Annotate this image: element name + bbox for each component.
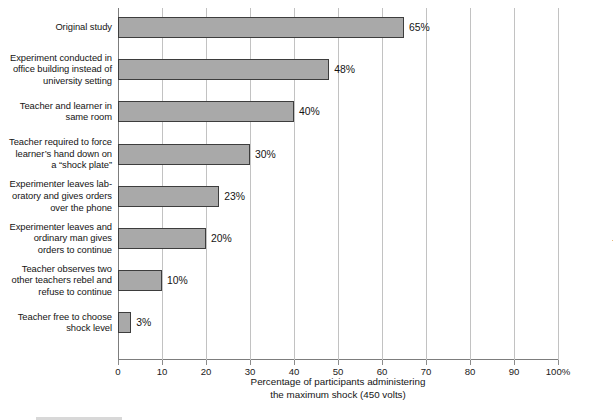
bar	[118, 144, 250, 165]
category-label: Teacher free to chooseshock level	[0, 311, 112, 334]
bar	[118, 228, 206, 249]
bar-value-label: 23%	[224, 186, 245, 207]
gridline	[470, 8, 471, 360]
x-axis-title-line-1: Percentage of participants administering	[118, 376, 558, 389]
category-label-line: Original study	[0, 21, 112, 33]
category-label-line: Teacher required to force	[0, 136, 112, 148]
bar-value-label: 3%	[136, 312, 151, 333]
bar	[118, 59, 329, 80]
category-label-line: orders to continue	[0, 244, 112, 256]
category-label-line: Teacher free to choose	[0, 311, 112, 323]
category-label-line: Experiment conducted in	[0, 52, 112, 64]
bar-value-label: 48%	[334, 59, 355, 80]
x-tick	[470, 360, 471, 365]
category-label-line: other teachers rebel and	[0, 274, 112, 286]
gridline	[426, 8, 427, 360]
bar	[118, 312, 131, 333]
category-label-line: oratory and gives orders	[0, 190, 112, 202]
category-label: Teacher observes twoother teachers rebel…	[0, 263, 112, 298]
x-tick	[250, 360, 251, 365]
category-label-line: ordinary man gives	[0, 232, 112, 244]
category-label: Experimenter leaves lab-oratory and give…	[0, 178, 112, 213]
gridline	[382, 8, 383, 360]
x-tick	[558, 360, 559, 365]
gridline	[514, 8, 515, 360]
x-tick	[514, 360, 515, 365]
bar	[118, 186, 219, 207]
category-label-line: Experimenter leaves lab-	[0, 178, 112, 190]
category-labels-column: Original studyExperiment conducted inoff…	[0, 0, 112, 356]
x-tick	[338, 360, 339, 365]
bar-chart-figure: Original studyExperiment conducted inoff…	[0, 0, 613, 420]
category-label-line: Teacher observes two	[0, 263, 112, 275]
gridline	[558, 8, 559, 360]
x-tick	[294, 360, 295, 365]
plot-area: 0102030405060708090100% 65%48%40%30%23%2…	[118, 8, 558, 360]
bar	[118, 270, 162, 291]
category-label-line: a “shock plate”	[0, 159, 112, 171]
category-label: Original study	[0, 21, 112, 33]
category-label-line: shock level	[0, 322, 112, 334]
category-label: Teacher required to forcelearner’s hand …	[0, 136, 112, 171]
x-tick	[426, 360, 427, 365]
category-label-line: Experimenter leaves and	[0, 221, 112, 233]
category-label-line: university setting	[0, 75, 112, 87]
x-tick	[206, 360, 207, 365]
bar-value-label: 10%	[167, 270, 188, 291]
category-label-line: learner’s hand down on	[0, 148, 112, 160]
bar-value-label: 65%	[409, 17, 430, 38]
category-label-line: refuse to continue	[0, 286, 112, 298]
bar-value-label: 20%	[211, 228, 232, 249]
category-label: Experiment conducted inoffice building i…	[0, 52, 112, 87]
x-tick	[382, 360, 383, 365]
category-label-line: over the phone	[0, 202, 112, 214]
bar	[118, 101, 294, 122]
bar	[118, 17, 404, 38]
x-tick	[162, 360, 163, 365]
bar-value-label: 30%	[255, 144, 276, 165]
bar-value-label: 40%	[299, 101, 320, 122]
x-axis-title: Percentage of participants administering…	[118, 376, 558, 401]
x-axis-title-line-2: the maximum shock (450 volts)	[118, 389, 558, 402]
category-label-line: same room	[0, 111, 112, 123]
category-label: Experimenter leaves andordinary man give…	[0, 221, 112, 256]
category-label-line: office building instead of	[0, 63, 112, 75]
category-label-line: Teacher and learner in	[0, 100, 112, 112]
category-label: Teacher and learner insame room	[0, 100, 112, 123]
x-tick	[118, 360, 119, 365]
